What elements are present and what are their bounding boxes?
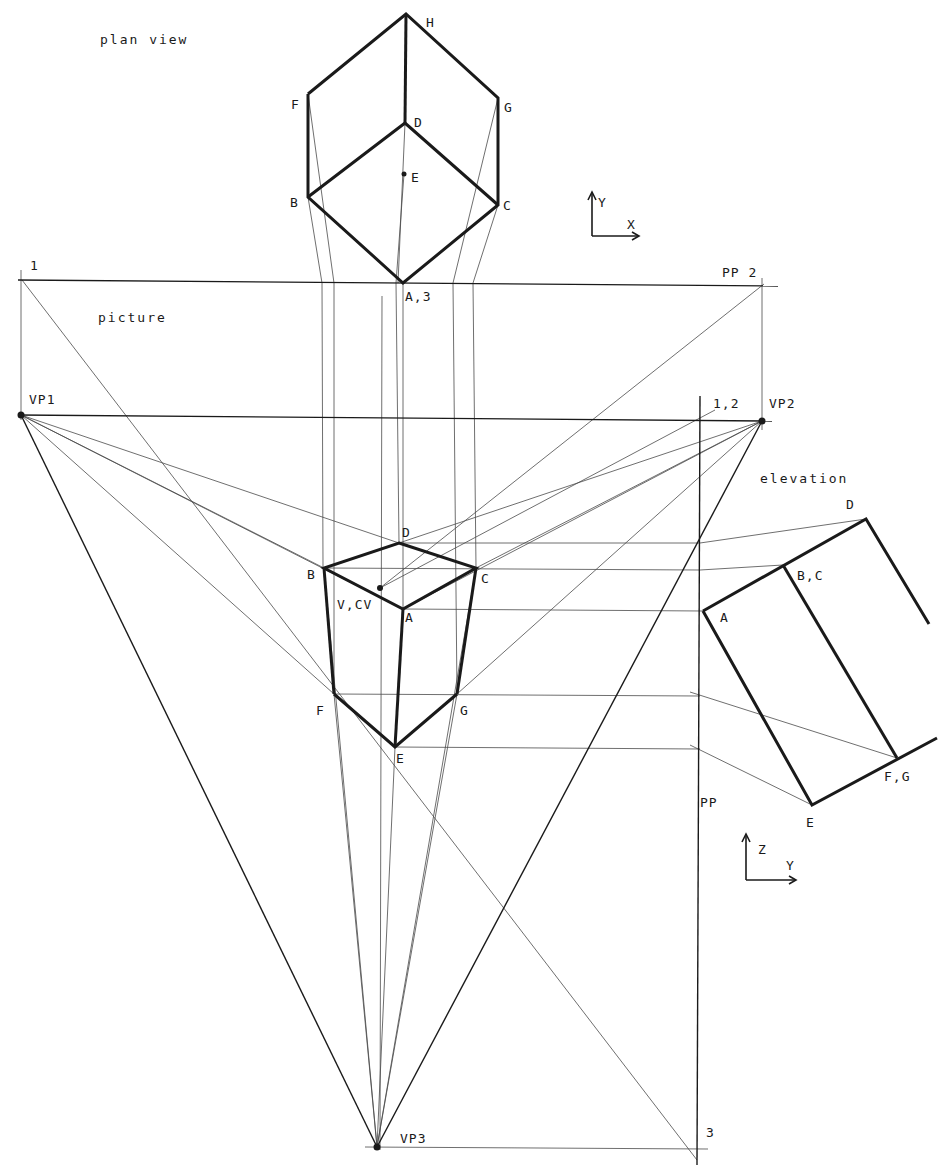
plan-label-d: D <box>414 115 423 130</box>
plan-label-a3: A,3 <box>405 289 431 304</box>
elevation-caption: elevation <box>760 471 848 486</box>
persp-label-g: G <box>460 703 469 718</box>
elev-label-fg: F,G <box>884 769 910 784</box>
vp2-dot <box>759 418 766 425</box>
vp2-label: VP2 <box>769 396 795 411</box>
plan-axis-x-label: X <box>627 217 636 232</box>
persp-label-vcv: V,CV <box>337 597 372 612</box>
persp-label-c: C <box>481 571 490 586</box>
elev-label-bc: B,C <box>797 568 823 583</box>
plan-label-c: C <box>503 198 512 213</box>
vp1-dot <box>18 412 25 419</box>
plan-view-cube <box>308 14 498 283</box>
plan-label-f: F <box>291 97 300 112</box>
picture-caption: picture <box>98 310 167 325</box>
vp1-vp3-line <box>21 415 377 1147</box>
plan-label-g: G <box>504 100 513 115</box>
construction-lines <box>21 94 897 1160</box>
center-of-vision-dot <box>377 585 383 591</box>
pp-vertical-label: PP <box>700 795 718 810</box>
plan-label-e: E <box>411 170 420 185</box>
pp2-label: PP 2 <box>722 265 757 280</box>
vp3-label: VP3 <box>400 1131 426 1146</box>
persp-label-f: F <box>316 703 325 718</box>
persp-label-a: A <box>405 610 414 625</box>
persp-label-b: B <box>307 567 316 582</box>
mark-12-label: 1,2 <box>713 396 739 411</box>
perspective-construction-drawing: Y X Z Y plan view picture elevation H F … <box>0 0 946 1165</box>
vp1-label: VP1 <box>29 392 55 407</box>
plan-view-caption: plan view <box>100 32 188 47</box>
persp-label-d: D <box>402 525 411 540</box>
elev-label-d: D <box>846 497 855 512</box>
pp-vertical-line <box>697 396 700 1165</box>
plan-axis-y-label: Y <box>598 195 607 210</box>
mark-1-label: 1 <box>30 258 39 273</box>
vp2-vp3-line <box>377 421 762 1147</box>
elev-label-a: A <box>720 610 729 625</box>
plan-axes-icon <box>588 192 639 240</box>
plan-label-h: H <box>426 15 435 30</box>
horizon-line <box>18 415 772 421</box>
mark-3-label: 3 <box>706 1125 715 1140</box>
plan-label-b: B <box>290 195 299 210</box>
vp3-dot <box>374 1144 381 1151</box>
plan-point-e-dot <box>402 172 407 177</box>
elev-label-e: E <box>806 815 815 830</box>
persp-label-e: E <box>396 751 405 766</box>
elevation-view <box>703 519 937 805</box>
elevation-axis-z-label: Z <box>758 842 767 857</box>
elevation-axis-y-label: Y <box>786 858 795 873</box>
drawing-canvas: Y X Z Y plan view picture elevation H F … <box>0 0 946 1165</box>
frame-lines <box>18 280 778 1165</box>
